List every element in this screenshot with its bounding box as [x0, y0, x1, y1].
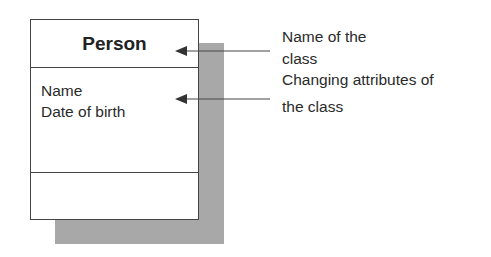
arrow-to-class-name	[175, 46, 270, 56]
annotation-class-name: Name of the class	[282, 26, 482, 70]
arrowhead-icon	[175, 94, 187, 104]
annotation-attributes: Changing attributes of the class	[282, 69, 482, 118]
arrowhead-icon	[175, 46, 187, 56]
annotation-line: Name of the	[282, 26, 482, 48]
arrow-to-attributes	[175, 94, 270, 104]
annotation-line: class	[282, 48, 482, 70]
annotation-line: the class	[282, 96, 482, 118]
annotation-line: Changing attributes of	[282, 69, 482, 91]
